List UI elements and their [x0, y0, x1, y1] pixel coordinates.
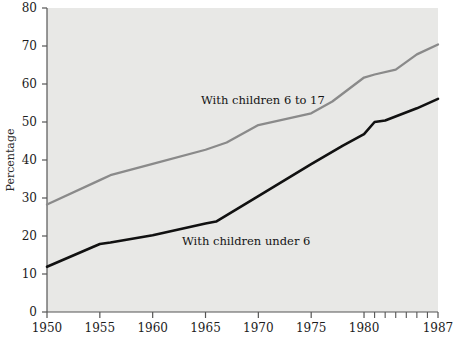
y-tick-label: 30 [22, 191, 37, 205]
x-tick-label: 1955 [85, 321, 116, 335]
plot-area-background [47, 8, 438, 312]
y-tick-label: 60 [22, 77, 37, 91]
y-tick-label: 80 [22, 1, 37, 15]
x-tick-label: 1975 [296, 321, 327, 335]
x-tick-label: 1950 [32, 321, 63, 335]
chart-figure: 01020304050607080 1950195519601965197019… [0, 0, 455, 340]
line-chart: 01020304050607080 1950195519601965197019… [0, 0, 455, 340]
x-tick-label: 1970 [243, 321, 274, 335]
y-tick-label: 20 [22, 229, 37, 243]
series-label-children-6-to-17: With children 6 to 17 [201, 93, 325, 107]
x-tick-label: 1987 [423, 321, 454, 335]
x-tick-label: 1960 [137, 321, 168, 335]
y-tick-label: 70 [22, 39, 37, 53]
x-tick-label: 1980 [349, 321, 380, 335]
y-tick-label: 50 [22, 115, 37, 129]
series-label-children-under-6: With children under 6 [182, 234, 310, 248]
y-axis-title: Percentage [4, 129, 17, 192]
x-axis-minor-ticks [375, 312, 428, 318]
y-tick-label: 40 [22, 153, 37, 167]
y-tick-label: 0 [29, 305, 37, 319]
y-axis-tick-labels: 01020304050607080 [22, 1, 37, 319]
x-tick-label: 1965 [190, 321, 221, 335]
x-axis-tick-labels: 19501955196019651970197519801987 [32, 321, 454, 335]
y-tick-label: 10 [22, 267, 37, 281]
x-axis-ticks [47, 312, 438, 318]
